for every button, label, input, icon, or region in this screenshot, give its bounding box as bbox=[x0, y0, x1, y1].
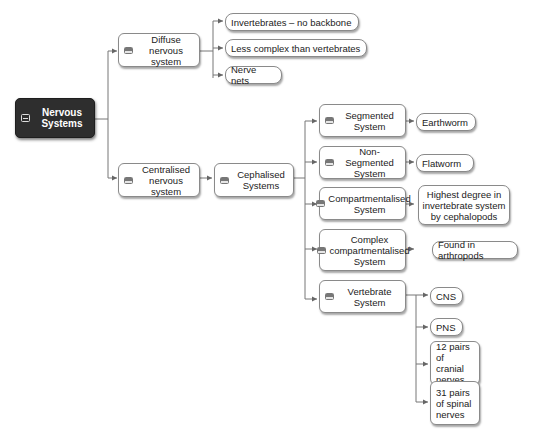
non-segmented-node[interactable]: Non-Segmented System bbox=[319, 146, 406, 179]
leaf-flatworm[interactable]: Flatworm bbox=[416, 154, 474, 172]
node-icon bbox=[316, 200, 325, 207]
leaf-spinal-nerves[interactable]: 31 pairs of spinal nerves bbox=[430, 381, 480, 425]
leaf-invertebrates[interactable]: Invertebrates – no backbone bbox=[225, 13, 359, 31]
complex-compartmentalised-node[interactable]: Complex compartmentalised System bbox=[319, 229, 406, 271]
node-icon bbox=[220, 177, 229, 184]
leaf-earthworm[interactable]: Earthworm bbox=[416, 113, 476, 131]
leaf-pns[interactable]: PNS bbox=[430, 318, 463, 336]
leaf-cranial-nerves[interactable]: 12 pairs of cranial nerves bbox=[430, 341, 480, 385]
node-icon bbox=[124, 177, 133, 184]
cephalised-node[interactable]: Cephalised Systems bbox=[214, 163, 294, 197]
vertebrate-node[interactable]: Vertebrate System bbox=[319, 280, 406, 313]
centralised-node[interactable]: Centralised nervous system bbox=[118, 163, 200, 197]
root-node[interactable]: Nervous Systems bbox=[15, 98, 95, 138]
leaf-arthropods[interactable]: Found in arthropods bbox=[432, 241, 518, 259]
leaf-cns[interactable]: CNS bbox=[430, 287, 463, 305]
node-icon bbox=[325, 159, 334, 166]
leaf-less-complex[interactable]: Less complex than vertebrates bbox=[225, 39, 367, 57]
leaf-nerve-nets[interactable]: Nerve nets bbox=[225, 66, 282, 84]
compartmentalised-node[interactable]: Compartmentalised System bbox=[319, 187, 406, 220]
node-icon bbox=[124, 47, 133, 54]
node-icon bbox=[325, 117, 334, 124]
segmented-node[interactable]: Segmented System bbox=[319, 104, 406, 137]
diffuse-node[interactable]: Diffuse nervous system bbox=[118, 33, 200, 67]
collapse-icon[interactable] bbox=[21, 114, 30, 122]
node-icon bbox=[325, 293, 334, 300]
leaf-highest-degree[interactable]: Highest degree in invertebrate system by… bbox=[418, 185, 510, 225]
node-icon bbox=[317, 247, 326, 254]
